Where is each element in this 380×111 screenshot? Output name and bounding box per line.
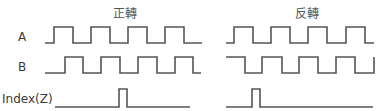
- forward-a-waveform: [45, 27, 202, 43]
- reverse-z-waveform: [226, 89, 373, 107]
- reverse-a-waveform: [226, 27, 374, 43]
- forward-z-waveform: [55, 89, 190, 107]
- reverse-b-waveform: [226, 57, 374, 73]
- waveform-canvas: [0, 0, 380, 111]
- forward-b-waveform: [45, 57, 201, 73]
